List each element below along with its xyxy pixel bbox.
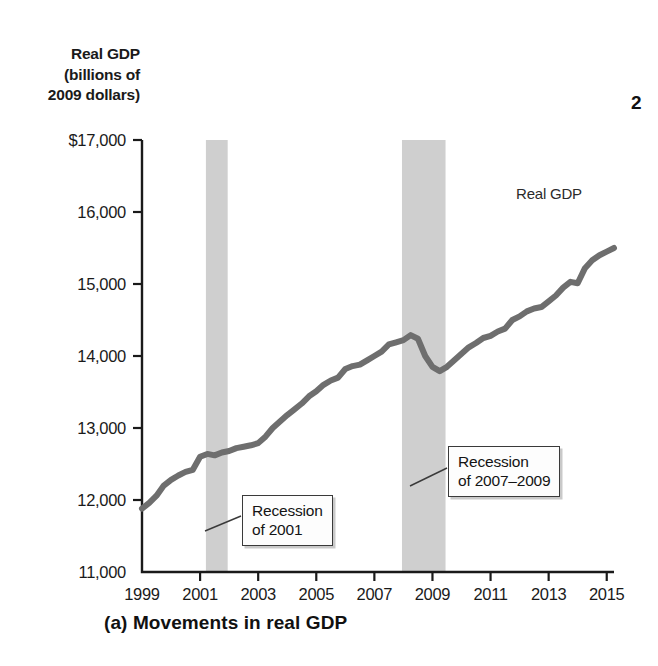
callout-recession-2001: Recession of 2001 <box>242 495 333 546</box>
y-tick-label-16000: 16,000 <box>0 204 126 221</box>
callout-recession-2007-2009: Recession of 2007–2009 <box>448 446 560 497</box>
y-axis-title-line-1: Real GDP <box>18 44 140 65</box>
y-tick-label-17000: $17,000 <box>0 132 126 149</box>
figure-panel-a: Real GDP (billions of 2009 dollars) 11,0… <box>0 0 658 666</box>
y-axis-title-line-3: 2009 dollars) <box>18 85 140 106</box>
figure-caption: (a) Movements in real GDP <box>104 612 347 634</box>
y-axis-title-line-2: (billions of <box>18 65 140 86</box>
series-label-real-gdp: Real GDP <box>516 186 582 201</box>
page-number-marker: 2 <box>631 92 644 114</box>
y-axis-ticks <box>133 140 142 500</box>
y-tick-label-14000: 14,000 <box>0 348 126 365</box>
callout-recession-2001-line-1: Recession <box>252 501 323 520</box>
x-axis-ticks <box>200 572 607 581</box>
recession-band-1 <box>206 140 228 572</box>
y-axis-title: Real GDP (billions of 2009 dollars) <box>18 44 140 106</box>
y-tick-label-15000: 15,000 <box>0 276 126 293</box>
callout-recession-2007-line-1: Recession <box>458 452 550 471</box>
x-tick-label-2015: 2015 <box>567 586 647 603</box>
y-tick-label-13000: 13,000 <box>0 420 126 437</box>
callout-recession-2007-line-2: of 2007–2009 <box>458 471 550 490</box>
y-tick-label-11000: 11,000 <box>0 564 126 581</box>
callout-recession-2001-line-2: of 2001 <box>252 520 323 539</box>
y-tick-label-12000: 12,000 <box>0 492 126 509</box>
chart-axes <box>133 140 614 581</box>
